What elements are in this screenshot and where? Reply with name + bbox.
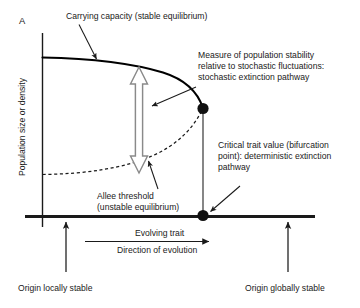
stability-gap-double-arrow bbox=[131, 67, 148, 173]
critical-trait-label-line3: pathway bbox=[218, 162, 250, 173]
x-axis-subtitle: Direction of evolution bbox=[117, 245, 197, 256]
bifurcation-point-origin-dot bbox=[197, 210, 208, 221]
carrying-capacity-label: Carrying capacity (stable equilibrium) bbox=[66, 11, 207, 22]
origin-globally-stable-label: Origin globally stable bbox=[245, 283, 325, 294]
allee-threshold-label-line1: Allee threshold bbox=[97, 191, 154, 202]
stability-measure-leader bbox=[152, 87, 196, 106]
allee-threshold-leader bbox=[149, 161, 159, 189]
carrying-capacity-leader bbox=[79, 25, 97, 60]
stability-measure-label-line3: stochastic extinction pathway bbox=[198, 72, 309, 83]
allee-threshold-curve bbox=[43, 108, 204, 175]
panel-letter: A bbox=[19, 16, 25, 27]
stability-measure-label-line2: relative to stochastic fluctuations: bbox=[198, 61, 324, 72]
critical-trait-label-line2: point): deterministic extinction bbox=[218, 151, 331, 162]
bifurcation-point-upper-dot bbox=[197, 103, 208, 114]
origin-locally-stable-label: Origin locally stable bbox=[18, 283, 93, 294]
critical-trait-label-line1: Critical trait value (bifurcation bbox=[218, 140, 329, 151]
carrying-capacity-curve bbox=[43, 58, 204, 109]
allee-threshold-label-line2: (unstable equilibrium) bbox=[97, 202, 179, 213]
stability-measure-label-line1: Measure of population stability bbox=[198, 50, 314, 61]
y-axis-title: Population size or density bbox=[17, 78, 27, 176]
critical-trait-leader bbox=[211, 186, 241, 212]
figure-panel-a: A Population size or density Carrying ca… bbox=[0, 0, 360, 308]
x-axis-title: Evolving trait bbox=[135, 228, 184, 239]
